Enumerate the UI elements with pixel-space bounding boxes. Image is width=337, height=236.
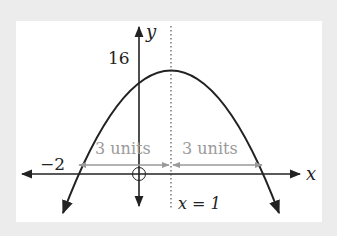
symmetry-label: x = 1	[178, 194, 221, 213]
left-root-label: −2	[40, 154, 65, 174]
y-axis-label: y	[145, 21, 157, 42]
left-distance-label: 3 units	[95, 139, 151, 158]
x-axis-label: x	[306, 163, 316, 184]
right-distance-label: 3 units	[182, 139, 238, 158]
parabola-diagram: y x 16 −2 3 units 3 units x = 1	[0, 0, 337, 236]
y-intercept-label: 16	[108, 48, 130, 68]
